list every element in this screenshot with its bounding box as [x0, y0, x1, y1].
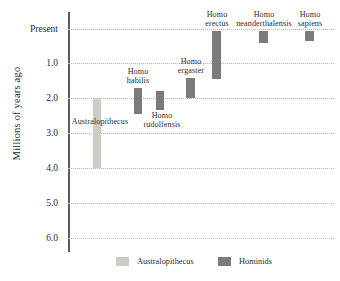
bar-homo-sapiens[interactable] — [305, 31, 314, 41]
legend-label-hominids: Hominids — [239, 257, 272, 266]
legend-entry-hominids[interactable]: Hominids — [218, 257, 272, 266]
label-homo-sapiens-line2: sapiens — [286, 20, 334, 29]
gridline-6 — [68, 238, 334, 239]
y-tick-5: 5.0 — [46, 198, 58, 208]
bar-homo-neanderthalensis[interactable] — [259, 31, 268, 43]
label-homo-habilis: Homo habilis — [114, 68, 162, 85]
bar-homo-habilis[interactable] — [134, 88, 142, 114]
legend-swatch-hominids — [218, 257, 231, 266]
y-tick-present: Present — [30, 24, 58, 34]
legend-entry-australopithecus[interactable]: Australopithecus — [116, 257, 194, 266]
gridline-3 — [68, 133, 334, 134]
legend-label-australopithecus: Australopithecus — [137, 257, 194, 266]
gridline-5 — [68, 203, 334, 204]
bar-homo-ergaster[interactable] — [186, 78, 195, 98]
label-homo-rudolfensis: Homo rudolfensis — [134, 112, 190, 129]
y-tick-1: 1.0 — [46, 58, 58, 68]
label-homo-habilis-line2: habilis — [114, 77, 162, 86]
chart-legend: Australopithecus Hominids — [0, 252, 340, 272]
y-tick-4: 4.0 — [46, 163, 58, 173]
legend-swatch-australopithecus — [116, 257, 129, 266]
hominid-timeline-chart: Millions of years ago Present 1.0 2.0 3.… — [0, 0, 340, 281]
gridline-2 — [68, 98, 334, 99]
y-tick-2: 2.0 — [46, 93, 58, 103]
label-australopithecus: Australopithecus — [60, 118, 140, 127]
gridline-4 — [68, 168, 334, 169]
y-tick-6: 6.0 — [46, 233, 58, 243]
bar-homo-rudolfensis[interactable] — [156, 91, 164, 110]
y-tick-3: 3.0 — [46, 128, 58, 138]
bar-australopithecus[interactable] — [93, 98, 101, 168]
label-homo-ergaster: Homo ergaster — [167, 58, 215, 75]
label-australopithecus-line1: Australopithecus — [60, 118, 140, 127]
label-homo-ergaster-line2: ergaster — [167, 67, 215, 76]
label-homo-rudolfensis-line2: rudolfensis — [134, 121, 190, 130]
plot-area: Australopithecus Homo habilis Homo rudol… — [68, 12, 334, 252]
gridline-present — [68, 29, 334, 30]
label-homo-sapiens: Homo sapiens — [286, 11, 334, 28]
y-axis-tick-labels: Present 1.0 2.0 3.0 4.0 5.0 6.0 — [0, 12, 64, 252]
